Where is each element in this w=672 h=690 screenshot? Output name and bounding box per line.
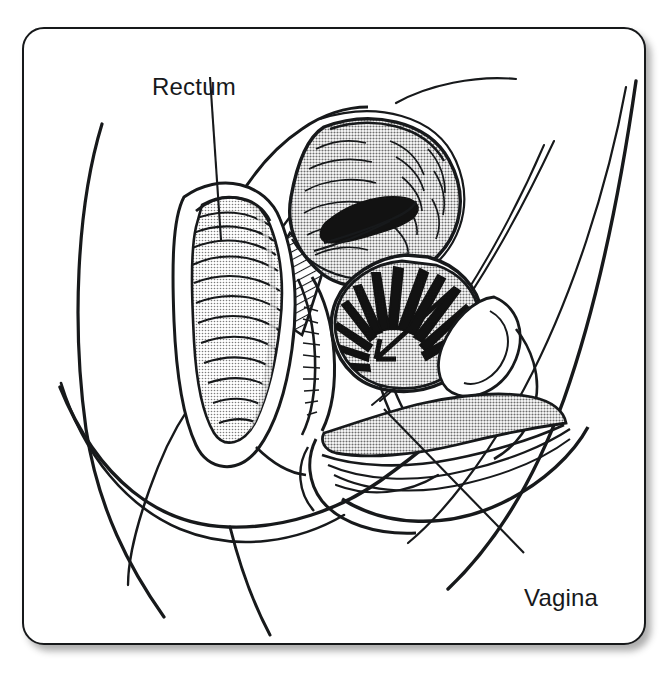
upper-torso-right (396, 78, 516, 103)
anorectal-junction (256, 447, 306, 475)
rectum-group (173, 183, 306, 475)
anatomy-illustration (24, 29, 644, 643)
vagina-group (300, 394, 588, 533)
vagina-canal (323, 394, 567, 456)
label-rectum: Rectum (152, 73, 236, 101)
label-vagina: Vagina (524, 584, 598, 612)
left-flank-contour (78, 124, 164, 617)
screenshot-root: Rectum Vagina (0, 0, 672, 690)
figure-frame: Rectum Vagina (22, 27, 646, 645)
